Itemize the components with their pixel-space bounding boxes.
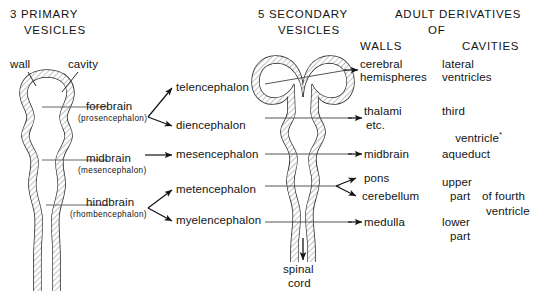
adult-wall-midbrain: midbrain	[364, 148, 409, 160]
header-cavities: CAVITIES	[462, 40, 519, 52]
adult-cavity-lateral: lateral	[442, 58, 474, 70]
secondary-vesicle-mesencephalon: mesencephalon	[176, 148, 259, 160]
header-secondary-line2: VESICLES	[278, 24, 340, 36]
spinal-cord-line2: cord	[288, 277, 311, 289]
spinal-cord-line1: spinal	[283, 263, 314, 275]
header-walls: WALLS	[360, 40, 402, 52]
primary-vesicle-forebrain: forebrain	[86, 100, 132, 112]
primary-vesicle-hindbrain: hindbrain	[86, 196, 134, 208]
adult-wall-cerebellum: cerebellum	[362, 190, 419, 202]
figure-canvas: 3 PRIMARY VESICLES 5 SECONDARY VESICLES …	[0, 0, 537, 291]
adult-wall-hemispheres: hemispheres	[360, 71, 427, 83]
adult-wall-medulla: medulla	[364, 216, 405, 228]
header-primary-line1: 3 PRIMARY	[10, 8, 78, 20]
adult-wall-etc: etc.	[366, 119, 385, 131]
fourth-ventricle-line1: of fourth	[482, 190, 525, 202]
adult-wall-pons: pons	[364, 172, 389, 184]
adult-wall-cerebral: cerebral	[360, 58, 402, 70]
primary-vesicle-forebrain-alt: (prosencephalon)	[78, 115, 147, 124]
arrows-primary-to-secondary	[145, 88, 172, 221]
secondary-vesicle-metencephalon: metencephalon	[176, 183, 256, 195]
adult-cavity-upper: upper	[442, 176, 472, 188]
primary-vesicle-midbrain: midbrain	[86, 152, 131, 164]
adult-cavity-lower: lower	[442, 216, 470, 228]
header-secondary-line1: 5 SECONDARY	[258, 8, 348, 20]
adult-cavity-aqueduct: aqueduct	[442, 148, 490, 160]
secondary-vesicle-shape	[252, 56, 354, 262]
secondary-division-lines	[265, 70, 352, 222]
arrows-secondary-to-walls	[336, 70, 362, 222]
footnote-marker: *	[499, 130, 502, 139]
adult-cavity-ventricles: ventricles	[442, 71, 492, 83]
primary-vesicle-shape	[20, 70, 74, 291]
adult-cavity-upper-part: part	[450, 190, 470, 202]
primary-vesicle-hindbrain-alt: (rhombencephalon)	[70, 211, 147, 220]
header-adult-line1: ADULT DERIVATIVES	[395, 8, 521, 20]
primary-vesicle-midbrain-alt: (mesencephalon)	[78, 167, 147, 176]
secondary-vesicle-diencephalon: diencephalon	[176, 119, 246, 131]
callout-wall-label: wall	[10, 58, 30, 70]
adult-cavity-third-ventricle: ventricle	[455, 132, 499, 144]
adult-cavity-lower-part: part	[450, 230, 470, 242]
adult-wall-thalami: thalami	[364, 105, 402, 117]
secondary-vesicle-myelencephalon: myelencephalon	[176, 214, 261, 226]
secondary-vesicle-telencephalon: telencephalon	[176, 81, 249, 93]
adult-cavity-third: third	[442, 105, 465, 117]
callout-cavity-label: cavity	[68, 58, 98, 70]
header-primary-line2: VESICLES	[24, 24, 86, 36]
callout-leaders	[28, 72, 78, 92]
fourth-ventricle-line2: ventricle	[486, 205, 530, 217]
header-adult-line2: OF	[428, 24, 445, 36]
